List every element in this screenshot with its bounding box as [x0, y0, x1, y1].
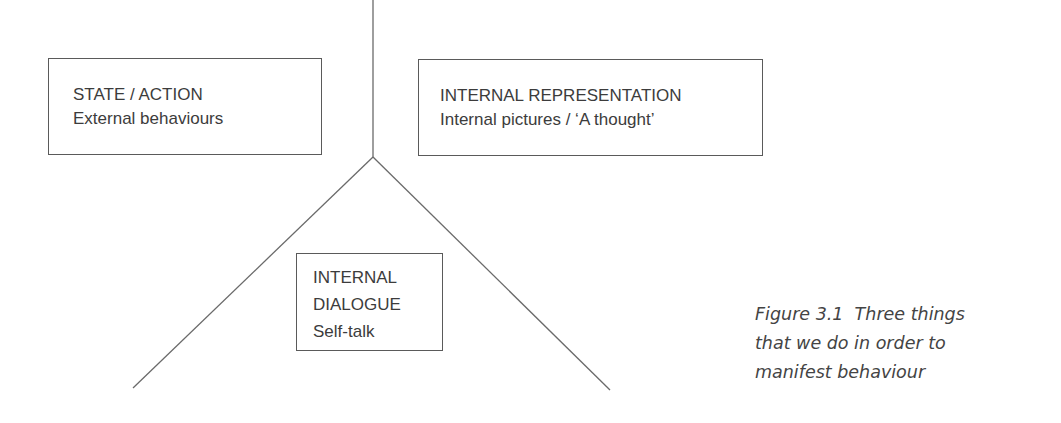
state-action-box: STATE / ACTION External behaviours	[48, 58, 322, 155]
figure-caption: Figure 3.1 Three things that we do in or…	[755, 300, 1035, 387]
internal-representation-title: INTERNAL REPRESENTATION	[440, 84, 682, 108]
state-action-subtitle: External behaviours	[73, 107, 223, 131]
internal-dialogue-box: INTERNAL DIALOGUE Self-talk	[296, 253, 443, 351]
state-action-title: STATE / ACTION	[73, 83, 203, 107]
caption-line-3: manifest behaviour	[755, 358, 1035, 387]
internal-representation-subtitle: Internal pictures / ‘A thought’	[440, 108, 655, 132]
internal-dialogue-subtitle: Self-talk	[313, 318, 374, 345]
caption-line-1: Figure 3.1 Three things	[755, 300, 1035, 329]
caption-line-2: that we do in order to	[755, 329, 1035, 358]
internal-dialogue-title-line1: INTERNAL	[313, 264, 397, 291]
internal-representation-box: INTERNAL REPRESENTATION Internal picture…	[418, 59, 763, 156]
internal-dialogue-title-line2: DIALOGUE	[313, 291, 401, 318]
